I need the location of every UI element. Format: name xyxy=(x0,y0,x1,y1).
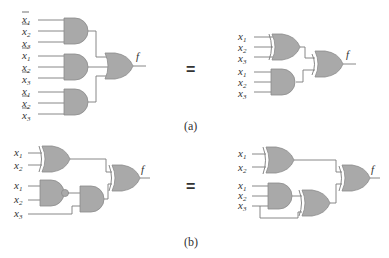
svg-text:x3: x3 xyxy=(21,109,31,123)
input-labels: x1 x2 x3 x1 x2 x3 x1 x2 x3 xyxy=(21,12,31,123)
and-gate xyxy=(64,54,88,80)
svg-text:x1: x1 xyxy=(237,147,246,161)
panel-b-right-circuit: x1 x2 x1 x2 x3 f xyxy=(237,147,380,218)
caption-b: (b) xyxy=(184,235,198,249)
output-label: f xyxy=(346,48,351,60)
svg-text:x2: x2 xyxy=(13,159,23,173)
nand-gate xyxy=(40,180,64,206)
panel-a-left-circuit: x1 x2 x3 x1 x2 x3 x1 x2 x3 f xyxy=(21,12,146,123)
and-gate xyxy=(271,69,295,95)
svg-text:x1: x1 xyxy=(13,146,22,160)
and-gate xyxy=(80,186,104,212)
and-gate xyxy=(64,18,88,44)
equals-sign: = xyxy=(186,178,195,195)
xor-gate xyxy=(302,190,330,216)
svg-text:x3: x3 xyxy=(13,207,23,221)
xor-gate xyxy=(315,51,343,77)
caption-a: (a) xyxy=(184,119,197,133)
and-gate xyxy=(268,183,292,209)
and-gate xyxy=(64,89,88,115)
inverter-bubble xyxy=(62,190,69,197)
xor-gate xyxy=(42,146,70,172)
panel-a-right-circuit: x1 x2 x3 x1 x2 x3 f xyxy=(237,30,356,101)
output-label: f xyxy=(141,163,146,175)
svg-text:x1: x1 xyxy=(13,179,22,193)
output-label: f xyxy=(371,163,376,175)
equals-sign: = xyxy=(186,61,195,78)
panel-b-left-circuit: x1 x2 x1 x2 x3 f xyxy=(13,146,150,221)
xor-gate xyxy=(342,165,370,191)
xor-gate xyxy=(112,165,140,191)
svg-text:x2: x2 xyxy=(237,161,247,175)
xor-gate xyxy=(266,147,294,173)
logic-diagram: x1 x2 x3 x1 x2 x3 x1 x2 x3 f = x xyxy=(0,0,389,258)
svg-text:x2: x2 xyxy=(13,193,23,207)
xor-gate xyxy=(272,34,300,60)
or-gate xyxy=(105,53,133,79)
output-label: f xyxy=(136,50,141,62)
